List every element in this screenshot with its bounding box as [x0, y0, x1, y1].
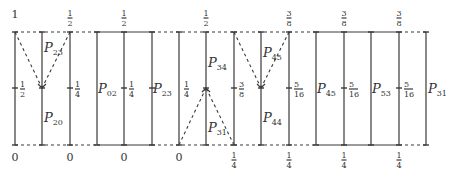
- mid-label-numerator: 1: [20, 80, 25, 89]
- region-label: P31: [207, 120, 227, 137]
- bottom-label-numerator: 1: [286, 151, 291, 160]
- region-label: P53: [371, 81, 391, 98]
- top-label-denominator: 8: [286, 19, 291, 28]
- mid-label-numerator: 1: [75, 80, 80, 89]
- region-label: P31: [427, 81, 447, 98]
- mid-label-denominator: 8: [239, 90, 244, 99]
- top-label-denominator: 2: [203, 19, 208, 28]
- bottom-label-denominator: 4: [286, 161, 291, 170]
- mid-label-numerator: 1: [129, 80, 134, 89]
- top-label-denominator: 8: [341, 19, 346, 28]
- bottom-label-numerator: 1: [341, 151, 346, 160]
- mid-label-denominator: 4: [75, 90, 80, 99]
- top-label-numerator: 3: [341, 9, 346, 18]
- region-label: P23: [152, 81, 172, 98]
- region-label: P45: [262, 45, 282, 62]
- mid-label-denominator: 16: [404, 90, 414, 99]
- bottom-label-numerator: 1: [231, 151, 236, 160]
- mid-label-numerator: 5: [404, 80, 409, 89]
- bottom-label-denominator: 4: [396, 161, 401, 170]
- top-label-denominator: 2: [67, 19, 72, 28]
- bottom-label-denominator: 4: [341, 161, 346, 170]
- top-label-numerator: 1: [67, 9, 72, 18]
- top-label-denominator: 2: [121, 19, 126, 28]
- top-label-denominator: 8: [396, 19, 401, 28]
- bottom-label: 0: [67, 151, 74, 164]
- mid-label-numerator: 3: [239, 80, 244, 89]
- bottom-label: 0: [121, 151, 128, 164]
- mid-label-numerator: 5: [294, 80, 299, 89]
- bottom-label: 0: [176, 151, 183, 164]
- mid-label-numerator: 1: [184, 80, 189, 89]
- bottom-label: 0: [12, 151, 19, 164]
- top-label-numerator: 3: [396, 9, 401, 18]
- bottom-label-denominator: 4: [231, 161, 236, 170]
- top-label-numerator: 1: [121, 9, 126, 18]
- mid-label-denominator: 4: [184, 90, 189, 99]
- diagram-canvas: 1121212383838000014141414121414143851651…: [0, 0, 454, 177]
- region-label: P23: [43, 40, 63, 57]
- region-label: P44: [262, 110, 282, 127]
- region-label: P45: [316, 81, 336, 98]
- region-label: P20: [43, 110, 63, 127]
- mid-label-denominator: 2: [20, 90, 25, 99]
- mid-label-numerator: 5: [349, 80, 354, 89]
- mid-label-denominator: 16: [349, 90, 359, 99]
- top-label-numerator: 1: [203, 9, 208, 18]
- region-label: P02: [97, 81, 117, 98]
- bottom-label-numerator: 1: [396, 151, 401, 160]
- mid-label-denominator: 16: [294, 90, 304, 99]
- mid-label-denominator: 4: [129, 90, 134, 99]
- top-label: 1: [12, 8, 19, 21]
- top-label-numerator: 3: [286, 9, 291, 18]
- region-label: P34: [207, 55, 227, 72]
